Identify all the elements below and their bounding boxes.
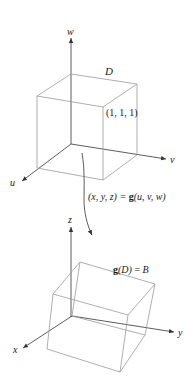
uvw-axes xyxy=(22,38,166,181)
axis-label-z: z xyxy=(67,214,72,225)
xyz-axes xyxy=(23,227,174,348)
v-axis xyxy=(71,144,166,159)
image-label: g(D) = B xyxy=(113,264,149,276)
corner-label: (1, 1, 1) xyxy=(106,107,138,119)
region-B xyxy=(47,262,155,372)
axis-label-x: x xyxy=(12,344,18,355)
diagram-canvas: w v u D (1, 1, 1) (x, y, z) = g(u, v, w)… xyxy=(0,0,193,384)
bottom-figure: z y x g(D) = B xyxy=(12,214,183,372)
mapping: (x, y, z) = g(u, v, w) xyxy=(82,153,166,235)
axis-label-w: w xyxy=(67,26,74,37)
region-label-D: D xyxy=(104,65,113,77)
axis-label-y: y xyxy=(177,327,183,338)
top-figure: w v u D (1, 1, 1) xyxy=(10,26,175,188)
u-axis xyxy=(22,144,71,181)
axis-label-u: u xyxy=(10,177,15,188)
cube-D xyxy=(37,74,137,180)
mapping-label: (x, y, z) = g(u, v, w) xyxy=(88,191,166,203)
axis-label-v: v xyxy=(170,154,175,165)
